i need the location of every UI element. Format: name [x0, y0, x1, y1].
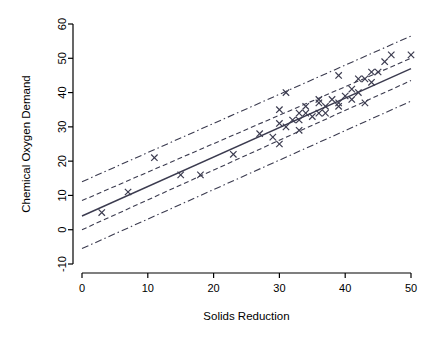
scatter-plot: -10010203040506001020304050Solids Reduct… [0, 0, 444, 341]
data-point-marker [230, 151, 236, 157]
x-tick-label: 20 [207, 282, 219, 294]
y-tick-label: 50 [56, 52, 68, 64]
data-point-marker [381, 59, 387, 65]
data-point-marker [270, 134, 276, 140]
data-point-marker [276, 120, 282, 126]
data-point-marker [316, 100, 322, 106]
x-tick-label: 10 [142, 282, 154, 294]
data-point-marker [329, 96, 335, 102]
x-tick-label: 50 [405, 282, 417, 294]
data-point-marker [151, 155, 157, 161]
data-point-marker [296, 110, 302, 116]
data-point-marker [349, 86, 355, 92]
data-point-marker [349, 96, 355, 102]
prediction-band-lower [82, 101, 411, 248]
y-tick-label: 20 [56, 155, 68, 167]
data-point-marker [276, 107, 282, 113]
regression-line [82, 69, 411, 216]
prediction-band-upper [82, 36, 411, 182]
data-point-marker [408, 52, 414, 58]
y-tick-label: -10 [56, 256, 68, 272]
y-tick-label: 60 [56, 18, 68, 30]
x-tick-label: 40 [339, 282, 351, 294]
data-point-marker [309, 113, 315, 119]
chart-container: -10010203040506001020304050Solids Reduct… [0, 0, 444, 341]
data-point-marker [335, 72, 341, 78]
y-axis-title: Chemical Oxygen Demand [20, 75, 32, 212]
data-point-marker [99, 209, 105, 215]
data-point-marker [368, 69, 374, 75]
data-point-marker [355, 76, 361, 82]
y-tick-label: 40 [56, 86, 68, 98]
confidence-band-upper [82, 58, 411, 200]
y-tick-label: 0 [56, 227, 68, 233]
data-point-marker [322, 110, 328, 116]
data-points [99, 52, 415, 216]
data-point-marker [125, 189, 131, 195]
data-point-marker [178, 172, 184, 178]
data-point-marker [276, 141, 282, 147]
y-tick-label: 10 [56, 189, 68, 201]
data-point-marker [388, 52, 394, 58]
confidence-band-lower [82, 81, 411, 230]
x-tick-label: 30 [273, 282, 285, 294]
data-point-marker [316, 110, 322, 116]
y-tick-label: 30 [56, 121, 68, 133]
x-tick-label: 0 [79, 282, 85, 294]
data-point-marker [335, 103, 341, 109]
data-point-marker [316, 96, 322, 102]
x-axis-title: Solids Reduction [203, 310, 289, 322]
data-point-marker [368, 79, 374, 85]
